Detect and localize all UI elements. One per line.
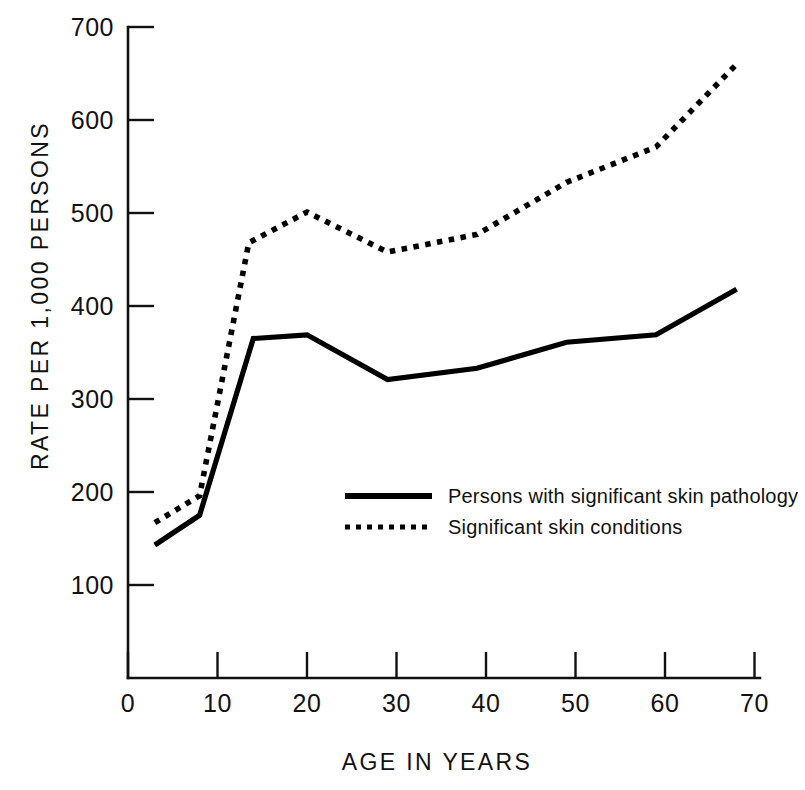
- chart-legend: Persons with significant skin pathology …: [345, 485, 798, 538]
- y-tick-label-400: 400: [71, 292, 114, 320]
- y-tick-label-100: 100: [71, 571, 114, 599]
- x-axis-title: AGE IN YEARS: [342, 749, 533, 775]
- y-tick-label-200: 200: [71, 478, 114, 506]
- x-tick-label-30: 30: [382, 689, 411, 717]
- y-tick-label-300: 300: [71, 385, 114, 413]
- x-tick-label-50: 50: [561, 689, 590, 717]
- series-line-1: [155, 64, 737, 522]
- x-tick-label-60: 60: [651, 689, 680, 717]
- x-tick-label-0: 0: [121, 689, 135, 717]
- y-axis-title: RATE PER 1,000 PERSONS: [27, 121, 53, 470]
- x-tick-label-40: 40: [472, 689, 501, 717]
- y-tick-label-500: 500: [71, 199, 114, 227]
- x-axis-ticks: [128, 652, 755, 678]
- y-tick-label-700: 700: [71, 13, 114, 41]
- y-axis-ticks: [128, 27, 154, 585]
- legend-label-1: Significant skin conditions: [448, 516, 682, 538]
- x-tick-label-20: 20: [293, 689, 322, 717]
- chart-container: 100200300400500600700 010203040506070 RA…: [0, 0, 805, 790]
- y-axis-tick-labels: 100200300400500600700: [71, 13, 114, 599]
- legend-label-0: Persons with significant skin pathology: [448, 485, 798, 507]
- y-tick-label-600: 600: [71, 106, 114, 134]
- x-axis-tick-labels: 010203040506070: [121, 689, 769, 717]
- x-tick-label-10: 10: [203, 689, 232, 717]
- data-series-layer: [155, 64, 737, 545]
- line-chart: 100200300400500600700 010203040506070 RA…: [0, 0, 805, 790]
- x-tick-label-70: 70: [740, 689, 769, 717]
